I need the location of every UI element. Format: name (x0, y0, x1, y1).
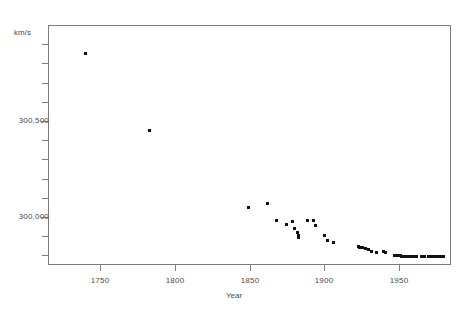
data-point (306, 219, 309, 222)
x-axis-tick-label: 1950 (379, 276, 419, 285)
y-axis-minor-tick (42, 44, 48, 45)
data-point (375, 251, 378, 254)
data-point (442, 255, 445, 258)
x-axis-tick-label: 1900 (304, 276, 344, 285)
data-point (247, 206, 250, 209)
y-axis-minor-tick (42, 198, 48, 199)
data-point (384, 251, 387, 254)
data-point (323, 234, 326, 237)
y-axis-units-label: km/s (14, 28, 31, 37)
y-axis-minor-tick (42, 140, 48, 141)
data-point (326, 239, 329, 242)
x-axis-tick (100, 265, 101, 271)
data-point (297, 236, 300, 239)
speed-of-light-scatter-chart: km/s 300,000300,50017501800185019001950 … (0, 0, 468, 317)
data-point (423, 255, 426, 258)
x-axis-tick (175, 265, 176, 271)
x-axis-tick (399, 265, 400, 271)
y-axis-minor-tick (42, 236, 48, 237)
data-point (275, 219, 278, 222)
data-point (148, 129, 151, 132)
x-axis-title: Year (0, 291, 468, 300)
y-axis-tick-label: 300,500 (19, 116, 49, 125)
y-axis-minor-tick (42, 83, 48, 84)
data-point (84, 52, 87, 55)
x-axis-tick-label: 1800 (155, 276, 195, 285)
x-axis-tick-label: 1850 (230, 276, 270, 285)
data-point (370, 250, 373, 253)
y-axis-minor-tick (42, 63, 48, 64)
data-point (312, 219, 315, 222)
y-axis-minor-tick (42, 159, 48, 160)
y-axis-tick-label: 300,000 (19, 212, 49, 221)
y-axis-minor-tick (42, 255, 48, 256)
plot-frame (48, 25, 451, 265)
data-point (266, 202, 269, 205)
data-point (285, 223, 288, 226)
data-point (293, 227, 296, 230)
data-point (332, 241, 335, 244)
x-axis-tick-label: 1750 (80, 276, 120, 285)
y-axis-minor-tick (42, 179, 48, 180)
data-point (415, 255, 418, 258)
x-axis-tick (250, 265, 251, 271)
y-axis-minor-tick (42, 102, 48, 103)
data-point (291, 220, 294, 223)
x-axis-tick (324, 265, 325, 271)
data-point (314, 224, 317, 227)
